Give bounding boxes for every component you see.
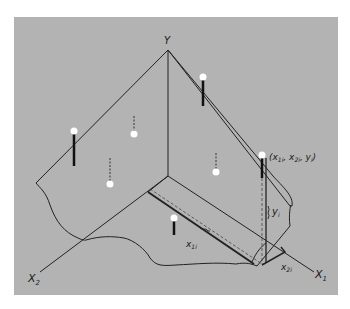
y-axis-label: Y (164, 35, 171, 46)
slab-edge (148, 176, 168, 192)
x2i-label: x2i (280, 262, 292, 273)
x1-axis (168, 176, 314, 272)
data-point (71, 128, 78, 135)
regression-diagram: Y X2 X1 (x1i, x2i, yi) yi x1i x2i (0, 0, 350, 309)
data-point (171, 215, 178, 222)
x1-axis-label: X1 (314, 268, 327, 283)
x1i-label: x1i (185, 239, 197, 250)
plane-edge-right (168, 50, 290, 206)
yi-brace (268, 206, 269, 219)
data-point (200, 74, 207, 81)
data-point (213, 169, 220, 176)
x1i-measure-line (148, 192, 254, 264)
x2-axis-label: X2 (27, 272, 41, 287)
yi-label: yi (271, 206, 280, 218)
data-point (107, 181, 114, 188)
point-coordinate-label: (x1i, x2i, yi) (269, 152, 316, 163)
data-point (259, 152, 266, 159)
data-point (131, 131, 138, 138)
